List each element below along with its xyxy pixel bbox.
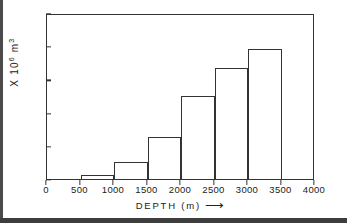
x-tick-mark <box>213 180 214 185</box>
bar <box>114 162 148 179</box>
chart-figure: 01020304050 0500100015002000250030003500… <box>0 0 347 223</box>
x-tick-mark <box>112 180 113 185</box>
x-tick-mark <box>313 180 314 185</box>
x-tick-mark <box>179 180 180 185</box>
bar <box>215 68 249 179</box>
plot-area <box>46 14 314 180</box>
x-tick-mark <box>246 180 247 185</box>
bar <box>148 137 182 179</box>
y-axis-label: X 106 m3 <box>8 2 20 122</box>
bar <box>181 96 215 179</box>
x-tick-label: 4000 <box>294 184 334 195</box>
x-tick-mark <box>146 180 147 185</box>
scan-edge-left <box>0 0 3 223</box>
bar <box>248 49 282 179</box>
x-tick-mark <box>79 180 80 185</box>
x-tick-mark <box>45 180 46 185</box>
x-axis-label: DEPTH (m) ⟶ <box>46 198 314 211</box>
x-tick-mark <box>280 180 281 185</box>
scan-edge-bottom <box>0 218 347 223</box>
bar <box>81 175 115 179</box>
